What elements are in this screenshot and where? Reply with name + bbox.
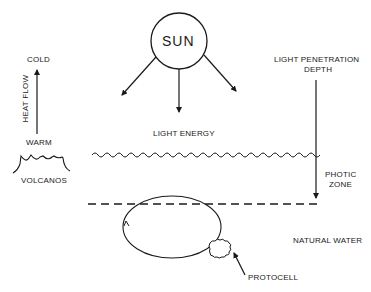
protocell-label: PROTOCELL — [248, 273, 298, 282]
protocell-pointer-arrow — [234, 253, 245, 275]
sun-ray-arrows — [122, 55, 236, 112]
protocell-origin-diagram: SUN COLD HEAT FLOW WARM VOLCANOS LIGHT E… — [0, 0, 371, 292]
heat-flow-axis-label: HEAT FLOW — [21, 83, 30, 123]
light-energy-wave — [92, 153, 320, 157]
sun-label: SUN — [162, 33, 195, 49]
light-penetration-label-line2: DEPTH — [304, 65, 332, 74]
photic-zone-label-line1: PHOTIC — [325, 170, 356, 179]
photic-zone-label-line2: ZONE — [329, 180, 352, 189]
volcanos-label: VOLCANOS — [21, 176, 67, 185]
protocell-shape — [209, 239, 231, 258]
light-energy-label: LIGHT ENERGY — [153, 129, 215, 138]
circulation-direction-arrow-icon — [124, 221, 129, 226]
heat-flow-bottom-label: WARM — [26, 138, 52, 147]
circulation-loop — [123, 196, 221, 258]
natural-water-label: NATURAL WATER — [293, 236, 362, 245]
volcanos-icon — [13, 155, 70, 173]
heat-flow-top-label: COLD — [27, 55, 50, 64]
light-penetration-label-line1: LIGHT PENETRATION — [274, 55, 359, 64]
